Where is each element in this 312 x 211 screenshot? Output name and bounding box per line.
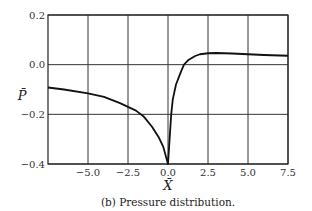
x-tick-label: −5.0	[76, 167, 100, 178]
x-tick-label: 5.0	[240, 167, 256, 178]
grid-lines	[48, 15, 288, 164]
x-tick-label: 0.0	[160, 167, 176, 178]
pressure-chart: 0.20.0−0.2−0.4 −5.0−2.50.02.55.07.5 P̄ X…	[0, 0, 312, 211]
y-tick-label: 0.0	[29, 59, 45, 70]
y-axis-label: P̄	[17, 88, 27, 103]
y-tick-label: 0.2	[29, 10, 45, 21]
y-tick-label: −0.4	[21, 159, 45, 170]
y-tick-label: −0.2	[21, 109, 45, 120]
x-axis-label: X̄	[162, 178, 173, 193]
figure-caption: (b) Pressure distribution.	[101, 196, 235, 208]
x-tick-label: −2.5	[116, 167, 140, 178]
x-tick-labels: −5.0−2.50.02.55.07.5	[76, 167, 296, 178]
x-tick-label: 2.5	[200, 167, 216, 178]
x-tick-label: 7.5	[280, 167, 296, 178]
